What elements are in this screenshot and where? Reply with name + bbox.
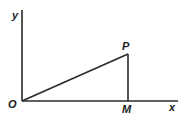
origin-label: O [8, 98, 17, 110]
point-m-label: M [122, 103, 132, 115]
diagram-canvas: y O P M x [0, 0, 187, 121]
x-axis-label: x [168, 101, 176, 113]
segment-op [22, 54, 128, 101]
point-p-label: P [122, 40, 130, 52]
y-axis-label: y [11, 9, 19, 21]
